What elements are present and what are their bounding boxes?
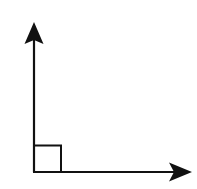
background (0, 0, 197, 189)
right-angle-diagram (0, 0, 197, 189)
